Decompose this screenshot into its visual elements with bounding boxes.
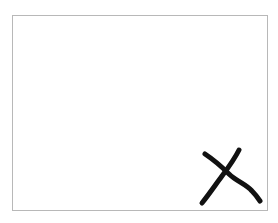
blank-canvas-frame (12, 15, 268, 211)
